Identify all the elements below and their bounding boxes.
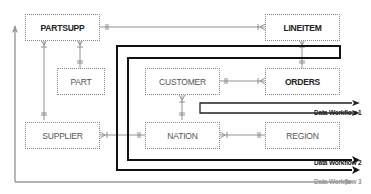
workflow-1-label: Data Workflow 1 — [314, 109, 361, 116]
entity-orders: ORDERS — [265, 68, 340, 95]
entity-label: SUPPLIER — [42, 131, 82, 141]
entity-label: REGION — [286, 131, 318, 141]
entity-label: PARTSUPP — [40, 23, 84, 33]
workflow-2-label: Data Workflow 2 — [314, 159, 361, 166]
entity-part: PART — [57, 68, 105, 95]
entity-label: LINEITEM — [283, 23, 321, 33]
workflow-3-path — [15, 26, 352, 182]
entity-supplier: SUPPLIER — [25, 122, 100, 149]
entity-label: CUSTOMER — [159, 77, 206, 87]
entity-label: NATION — [167, 131, 197, 141]
entity-label: PART — [70, 77, 91, 87]
workflow-2-path — [117, 46, 352, 170]
entity-label: ORDERS — [285, 77, 320, 87]
entity-customer: CUSTOMER — [145, 68, 220, 95]
entity-partsupp: PARTSUPP — [25, 14, 100, 41]
entity-region: REGION — [265, 122, 340, 149]
entity-lineitem: LINEITEM — [265, 14, 340, 41]
entity-nation: NATION — [145, 122, 220, 149]
workflow-3-label: Data Workflow 3 — [314, 178, 361, 185]
